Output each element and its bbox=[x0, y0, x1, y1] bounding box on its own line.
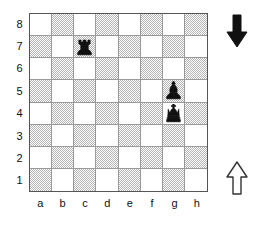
board-square-c1[interactable] bbox=[74, 169, 96, 191]
board-square-b7[interactable] bbox=[52, 36, 74, 58]
board-square-a2[interactable] bbox=[30, 147, 52, 169]
board-square-f1[interactable] bbox=[141, 169, 163, 191]
file-label-row: a b c d e f g h bbox=[29, 195, 208, 211]
board-square-g3[interactable] bbox=[163, 125, 185, 147]
board-square-c8[interactable] bbox=[74, 14, 96, 36]
board-square-c3[interactable] bbox=[74, 125, 96, 147]
board-square-d2[interactable] bbox=[96, 147, 118, 169]
board-square-a8[interactable] bbox=[30, 14, 52, 36]
board-square-e4[interactable] bbox=[119, 103, 141, 125]
board-square-g4[interactable] bbox=[163, 103, 185, 125]
board-square-b6[interactable] bbox=[52, 58, 74, 80]
board-square-h5[interactable] bbox=[185, 80, 207, 102]
rank-label-1: 1 bbox=[12, 170, 27, 192]
board-square-g7[interactable] bbox=[163, 36, 185, 58]
board-square-d7[interactable] bbox=[96, 36, 118, 58]
board-square-b2[interactable] bbox=[52, 147, 74, 169]
board-square-c7[interactable] bbox=[74, 36, 96, 58]
board-square-h7[interactable] bbox=[185, 36, 207, 58]
white-direction-arrow-icon bbox=[226, 161, 248, 195]
board-square-h4[interactable] bbox=[185, 103, 207, 125]
board-square-c5[interactable] bbox=[74, 80, 96, 102]
board-square-f6[interactable] bbox=[141, 58, 163, 80]
board-square-a5[interactable] bbox=[30, 80, 52, 102]
board-square-h3[interactable] bbox=[185, 125, 207, 147]
board-square-h1[interactable] bbox=[185, 169, 207, 191]
file-label-a: a bbox=[29, 195, 51, 211]
board-square-d6[interactable] bbox=[96, 58, 118, 80]
board-square-e1[interactable] bbox=[119, 169, 141, 191]
file-label-b: b bbox=[51, 195, 73, 211]
board-square-e8[interactable] bbox=[119, 14, 141, 36]
board-square-g8[interactable] bbox=[163, 14, 185, 36]
board-square-e2[interactable] bbox=[119, 147, 141, 169]
board-square-h2[interactable] bbox=[185, 147, 207, 169]
rank-label-3: 3 bbox=[12, 125, 27, 147]
board-square-e7[interactable] bbox=[119, 36, 141, 58]
rank-label-2: 2 bbox=[12, 147, 27, 169]
black-rook-icon[interactable] bbox=[75, 37, 94, 56]
board-square-f7[interactable] bbox=[141, 36, 163, 58]
rank-label-7: 7 bbox=[12, 35, 27, 57]
file-label-h: h bbox=[186, 195, 208, 211]
board-square-h8[interactable] bbox=[185, 14, 207, 36]
board-square-g2[interactable] bbox=[163, 147, 185, 169]
board-square-a7[interactable] bbox=[30, 36, 52, 58]
board-square-c6[interactable] bbox=[74, 58, 96, 80]
board-square-e5[interactable] bbox=[119, 80, 141, 102]
board-square-d8[interactable] bbox=[96, 14, 118, 36]
board-square-a6[interactable] bbox=[30, 58, 52, 80]
black-bishop-icon[interactable] bbox=[164, 81, 183, 100]
board-square-d3[interactable] bbox=[96, 125, 118, 147]
board-square-b3[interactable] bbox=[52, 125, 74, 147]
black-king-icon[interactable] bbox=[164, 104, 183, 123]
board-square-b1[interactable] bbox=[52, 169, 74, 191]
rank-label-4: 4 bbox=[12, 103, 27, 125]
board-square-b5[interactable] bbox=[52, 80, 74, 102]
file-label-e: e bbox=[119, 195, 141, 211]
rank-label-column: 8 7 6 5 4 3 2 1 bbox=[12, 13, 27, 192]
file-label-d: d bbox=[96, 195, 118, 211]
board-square-g5[interactable] bbox=[163, 80, 185, 102]
board-square-d4[interactable] bbox=[96, 103, 118, 125]
file-label-c: c bbox=[74, 195, 96, 211]
chess-board[interactable] bbox=[29, 13, 208, 192]
board-square-f2[interactable] bbox=[141, 147, 163, 169]
board-square-a4[interactable] bbox=[30, 103, 52, 125]
board-square-e3[interactable] bbox=[119, 125, 141, 147]
chess-position-diagram: 8 7 6 5 4 3 2 1 a b c d e f g h bbox=[0, 0, 263, 226]
board-square-a1[interactable] bbox=[30, 169, 52, 191]
black-direction-arrow-icon bbox=[226, 14, 248, 48]
board-square-b4[interactable] bbox=[52, 103, 74, 125]
board-square-b8[interactable] bbox=[52, 14, 74, 36]
board-square-h6[interactable] bbox=[185, 58, 207, 80]
board-square-g6[interactable] bbox=[163, 58, 185, 80]
board-square-c4[interactable] bbox=[74, 103, 96, 125]
rank-label-6: 6 bbox=[12, 58, 27, 80]
file-label-f: f bbox=[141, 195, 163, 211]
board-square-f5[interactable] bbox=[141, 80, 163, 102]
board-square-g1[interactable] bbox=[163, 169, 185, 191]
board-square-d1[interactable] bbox=[96, 169, 118, 191]
board-square-f4[interactable] bbox=[141, 103, 163, 125]
board-square-f8[interactable] bbox=[141, 14, 163, 36]
board-square-c2[interactable] bbox=[74, 147, 96, 169]
file-label-g: g bbox=[163, 195, 185, 211]
board-square-a3[interactable] bbox=[30, 125, 52, 147]
board-square-f3[interactable] bbox=[141, 125, 163, 147]
board-square-e6[interactable] bbox=[119, 58, 141, 80]
rank-label-5: 5 bbox=[12, 80, 27, 102]
rank-label-8: 8 bbox=[12, 13, 27, 35]
board-square-d5[interactable] bbox=[96, 80, 118, 102]
